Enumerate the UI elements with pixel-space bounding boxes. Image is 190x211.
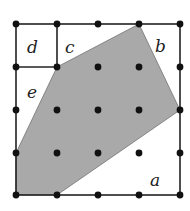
lattice-dot	[177, 64, 184, 71]
lattice-dot	[13, 21, 20, 28]
lattice-dot	[95, 64, 102, 71]
lattice-dot	[95, 107, 102, 114]
lattice-dot	[136, 192, 143, 199]
lattice-polygon-diagram: a b c d e	[0, 0, 190, 211]
region-label-b: b	[155, 36, 166, 56]
lattice-dot	[136, 64, 143, 71]
lattice-dot	[177, 21, 184, 28]
lattice-dot	[54, 150, 61, 157]
lattice-dot	[54, 64, 61, 71]
lattice-dot	[177, 192, 184, 199]
lattice-dot	[13, 150, 20, 157]
lattice-dot	[54, 192, 61, 199]
lattice-dot	[136, 107, 143, 114]
lattice-dot	[136, 21, 143, 28]
lattice-dot	[95, 21, 102, 28]
lattice-dot	[136, 150, 143, 157]
lattice-dot	[54, 21, 61, 28]
lattice-dot	[13, 107, 20, 114]
lattice-dot	[54, 107, 61, 114]
region-label-e: e	[27, 82, 37, 102]
lattice-dot	[95, 192, 102, 199]
lattice-dot	[13, 192, 20, 199]
lattice-dot	[95, 150, 102, 157]
lattice-dot	[177, 150, 184, 157]
lattice-dot	[13, 64, 20, 71]
region-label-c: c	[65, 37, 75, 57]
region-label-d: d	[27, 37, 38, 57]
lattice-dot	[177, 107, 184, 114]
region-label-a: a	[150, 170, 160, 190]
